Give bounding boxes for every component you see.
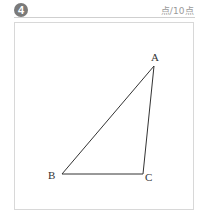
vertex-label-b: B: [48, 169, 55, 181]
vertex-label-c: C: [145, 171, 152, 183]
triangle-figure: A B C: [0, 0, 208, 224]
triangle-abc: [62, 66, 154, 174]
vertex-label-a: A: [151, 51, 159, 63]
